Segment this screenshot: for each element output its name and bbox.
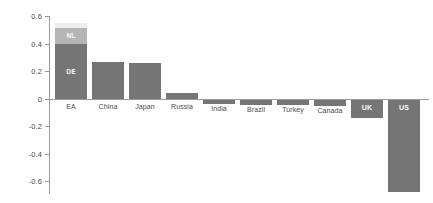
bar-us[interactable] <box>388 100 420 192</box>
y-tick-label-0: 0.6 <box>12 12 42 21</box>
bar-turkey[interactable] <box>277 100 309 105</box>
y-tick-mark <box>45 126 50 127</box>
bar-chart: 0.6 0.4 0.2 0 -0.2 -0.4 -0.6 NL DE EA Ch… <box>0 0 433 203</box>
bar-segment-nl-label: NL <box>55 32 87 39</box>
bar-china[interactable] <box>92 62 124 99</box>
category-label-japan: Japan <box>129 103 161 110</box>
category-label-russia: Russia <box>166 103 198 110</box>
bar-segment-de[interactable]: DE <box>55 44 87 99</box>
bar-russia[interactable] <box>166 93 198 99</box>
y-tick-label-3: 0 <box>12 95 42 104</box>
category-label-india: India <box>203 105 235 112</box>
category-label-uk: UK <box>351 104 383 111</box>
y-tick-mark <box>45 71 50 72</box>
y-tick-mark <box>45 16 50 17</box>
y-tick-label-6: -0.6 <box>12 177 42 186</box>
category-label-canada: Canada <box>314 107 346 114</box>
bar-india[interactable] <box>203 100 235 104</box>
category-label-turkey: Turkey <box>277 106 309 113</box>
y-tick-mark <box>45 181 50 182</box>
bar-japan[interactable] <box>129 63 161 99</box>
y-tick-label-4: -0.2 <box>12 122 42 131</box>
bar-segment-nl[interactable]: NL <box>55 28 87 44</box>
y-tick-label-5: -0.4 <box>12 150 42 159</box>
y-tick-mark <box>45 99 50 100</box>
y-tick-label-2: 0.2 <box>12 67 42 76</box>
y-tick-mark <box>45 154 50 155</box>
bar-ea[interactable]: NL DE <box>55 23 87 99</box>
category-label-ea: EA <box>55 103 87 110</box>
bar-canada[interactable] <box>314 100 346 106</box>
y-axis-line <box>49 16 50 194</box>
category-label-us: US <box>388 104 420 111</box>
category-label-brazil: Brazil <box>240 106 272 113</box>
category-label-china: China <box>92 103 124 110</box>
bar-segment-de-label: DE <box>55 68 87 75</box>
y-tick-label-1: 0.4 <box>12 40 42 49</box>
bar-brazil[interactable] <box>240 100 272 105</box>
y-tick-mark <box>45 44 50 45</box>
